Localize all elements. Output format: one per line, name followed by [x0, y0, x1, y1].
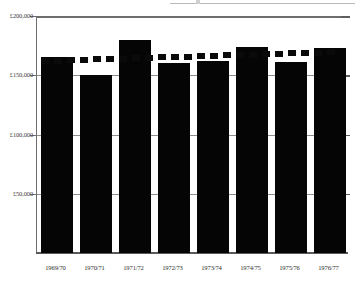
y-axis-label: £100,000	[0, 131, 33, 138]
bar	[197, 61, 229, 253]
bar	[41, 57, 73, 253]
bar	[119, 40, 151, 253]
y-axis-label: £150,000	[0, 71, 33, 78]
x-axis-label: 1975/76	[270, 263, 309, 272]
y-axis-label: £50,000	[0, 190, 33, 197]
bar	[158, 63, 190, 253]
x-axis-label: 1972/73	[153, 263, 192, 272]
x-axis-labels: 1969/701970/711971/721972/731973/741974/…	[36, 263, 348, 277]
y-axis-label: £200,000	[0, 12, 33, 19]
x-axis-label: 1974/75	[231, 263, 270, 272]
x-axis-label: 1969/70	[36, 263, 75, 272]
x-axis-label: 1976/77	[309, 263, 348, 272]
x-axis-label: 1970/71	[75, 263, 114, 272]
x-axis-label: 1973/74	[192, 263, 231, 272]
x-axis-label: 1971/72	[114, 263, 153, 272]
bar	[314, 48, 346, 253]
bar-series	[36, 16, 348, 253]
bar-chart: £50,000£100,000£150,000£200,000 1969/701…	[0, 0, 355, 287]
bar	[275, 62, 307, 253]
bar	[236, 47, 268, 253]
bar	[80, 75, 112, 253]
